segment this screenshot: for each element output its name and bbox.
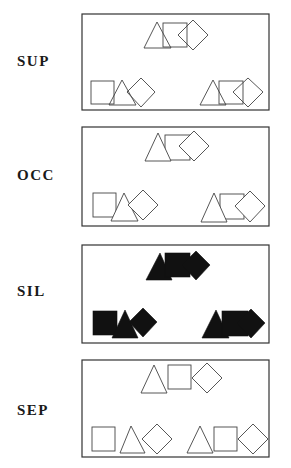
square-icon xyxy=(93,311,117,335)
square-icon xyxy=(214,427,237,451)
panel-sup xyxy=(82,14,269,110)
panel-occ xyxy=(82,127,269,226)
square-icon xyxy=(168,365,191,389)
square-icon xyxy=(93,193,116,217)
panel-border xyxy=(82,14,269,110)
condition-label-sup: SUP xyxy=(17,53,50,69)
panel-sep xyxy=(82,360,269,457)
shape-group-bottom-right xyxy=(187,424,268,454)
condition-label-sep: SEP xyxy=(17,402,49,418)
shape-group-top xyxy=(141,363,222,393)
condition-label-sil: SIL xyxy=(17,283,46,299)
condition-label-occ: OCC xyxy=(17,167,55,183)
square-icon xyxy=(92,427,115,451)
panel-sil xyxy=(82,245,269,343)
stimulus-figure: SUP OCC xyxy=(0,0,291,468)
shape-group-bottom-left xyxy=(92,424,172,454)
